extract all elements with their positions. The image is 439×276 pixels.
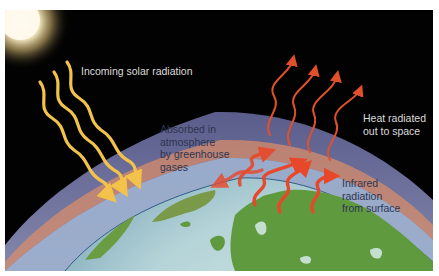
greenhouse-diagram: Incoming solar radiation Absorbed in atm… <box>5 10 433 271</box>
label-infrared: Infrared radiation from surface <box>342 177 400 215</box>
label-absorbed: Absorbed in atmosphere by greenhouse gas… <box>160 123 229 173</box>
label-heat-out: Heat radiated out to space <box>363 112 426 137</box>
label-incoming-solar: Incoming solar radiation <box>81 65 192 78</box>
